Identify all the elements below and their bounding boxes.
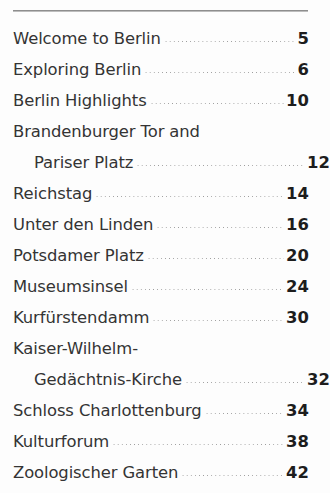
toc-entry-title: Schloss Charlottenburg <box>13 395 202 426</box>
toc-entry-line: Reichstag14 <box>13 178 309 209</box>
toc-entry-line: Kaiser-Wilhelm-32 <box>13 333 309 364</box>
toc-page-number: 12 <box>307 147 330 178</box>
toc-entry[interactable]: Unter den Linden16 <box>13 209 309 240</box>
toc-entry-title: Museumsinsel <box>13 271 128 302</box>
toc-entry-line: Museumsinsel24 <box>13 271 309 302</box>
toc-entry-title: Zoologischer Garten <box>13 457 178 488</box>
toc-page-number: 20 <box>286 240 309 271</box>
toc-entry-title: Reichstag <box>13 178 92 209</box>
toc-dot-leader <box>156 227 284 228</box>
toc-entry[interactable]: Exploring Berlin6 <box>13 54 309 85</box>
toc-entry[interactable]: Reichstag14 <box>13 178 309 209</box>
toc-page-number: 34 <box>286 395 309 426</box>
toc-page-number: 30 <box>286 302 309 333</box>
toc-dot-leader <box>181 475 284 476</box>
toc-entry[interactable]: Kurfürstendamm30 <box>13 302 309 333</box>
toc-entry-line: Potsdamer Platz20 <box>13 240 309 271</box>
toc-entry-title: Exploring Berlin <box>13 54 141 85</box>
toc-entry-title: Kaiser-Wilhelm- <box>13 333 138 364</box>
toc-entry-title: Kulturforum <box>13 426 109 457</box>
toc-entry[interactable]: Museumsinsel24 <box>13 271 309 302</box>
toc-entry-title: Brandenburger Tor and <box>13 116 200 147</box>
toc-entry-continuation-line: Pariser Platz12 <box>13 147 330 178</box>
toc-entry-line: Kurfürstendamm30 <box>13 302 309 333</box>
toc-entry[interactable]: Kulturforum38 <box>13 426 309 457</box>
toc-entry-title: Berlin Highlights <box>13 85 147 116</box>
toc-entry[interactable]: Kaiser-Wilhelm-32Gedächtnis-Kirche32 <box>13 333 309 395</box>
toc-dot-leader <box>147 258 285 259</box>
toc-dot-leader <box>112 444 284 445</box>
toc-entry-line: Unter den Linden16 <box>13 209 309 240</box>
toc-page-number: 5 <box>295 23 309 54</box>
toc-entry-line: Welcome to Berlin5 <box>13 23 309 54</box>
toc-entry-title: Pariser Platz <box>34 147 133 178</box>
toc-entry-title: Gedächtnis-Kirche <box>34 364 182 395</box>
toc-entry-line: Schloss Charlottenburg34 <box>13 395 309 426</box>
toc-page-number: 42 <box>286 457 309 488</box>
toc-dot-leader <box>164 41 294 42</box>
toc-page-number: 24 <box>286 271 309 302</box>
toc-entry[interactable]: Potsdamer Platz20 <box>13 240 309 271</box>
toc-entry-line: Berlin Highlights10 <box>13 85 309 116</box>
toc-entry[interactable]: Brandenburger Tor and12Pariser Platz12 <box>13 116 309 178</box>
toc-entry[interactable]: Welcome to Berlin5 <box>13 23 309 54</box>
toc-entry-line: Kulturforum38 <box>13 426 309 457</box>
toc-dot-leader <box>205 413 285 414</box>
toc-entry-list: Welcome to Berlin5Exploring Berlin6Berli… <box>13 23 309 488</box>
toc-page-number: 14 <box>286 178 309 209</box>
toc-entry-line: Exploring Berlin6 <box>13 54 309 85</box>
table-of-contents-page: Welcome to Berlin5Exploring Berlin6Berli… <box>0 10 324 493</box>
toc-entry[interactable]: Zoologischer Garten42 <box>13 457 309 488</box>
toc-dot-leader <box>136 165 305 166</box>
toc-dot-leader <box>95 196 284 197</box>
toc-entry-title: Kurfürstendamm <box>13 302 149 333</box>
header-divider-rule <box>13 10 308 12</box>
toc-page-number: 10 <box>286 85 309 116</box>
toc-page-number: 6 <box>295 54 309 85</box>
toc-entry-title: Potsdamer Platz <box>13 240 144 271</box>
toc-dot-leader <box>150 103 285 104</box>
toc-entry[interactable]: Schloss Charlottenburg34 <box>13 395 309 426</box>
toc-page-number: 32 <box>307 364 330 395</box>
toc-page-number: 38 <box>286 426 309 457</box>
toc-dot-leader <box>185 382 306 383</box>
toc-entry-line: Brandenburger Tor and12 <box>13 116 309 147</box>
toc-page-number: 16 <box>286 209 309 240</box>
toc-dot-leader <box>144 72 293 73</box>
toc-entry[interactable]: Berlin Highlights10 <box>13 85 309 116</box>
toc-dot-leader <box>131 289 285 290</box>
toc-entry-line: Zoologischer Garten42 <box>13 457 309 488</box>
toc-dot-leader <box>152 320 284 321</box>
toc-entry-title: Welcome to Berlin <box>13 23 161 54</box>
toc-entry-continuation-line: Gedächtnis-Kirche32 <box>13 364 330 395</box>
toc-entry-title: Unter den Linden <box>13 209 153 240</box>
